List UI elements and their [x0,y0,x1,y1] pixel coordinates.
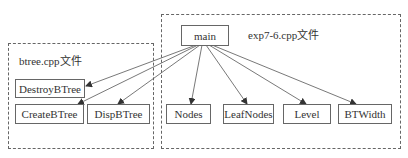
node-btwidth: BTWidth [338,104,392,124]
edge-main-destroy [86,45,196,86]
node-leafnodes: LeafNodes [223,104,274,124]
edge-main-disp [118,45,200,104]
edge-main-create [78,45,198,104]
edge-main-btwidth [212,45,356,104]
node-createbtree: CreateBTree [15,104,84,124]
node-dispbtree: DispBTree [87,104,150,124]
node-nodes: Nodes [166,104,211,124]
edge-main-nodes [191,45,202,104]
node-main: main [181,25,229,46]
edge-main-leafnodes [206,45,247,104]
node-level: Level [283,104,331,124]
node-destroybtree: DestroyBTree [15,79,85,98]
edge-main-level [209,45,306,104]
